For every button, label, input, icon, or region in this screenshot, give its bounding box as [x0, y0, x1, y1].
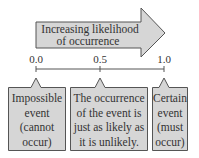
callout-line: event: [152, 106, 188, 121]
callout-line: event: [8, 106, 66, 121]
callout-line: just as likely as: [70, 120, 148, 135]
number-line: [36, 66, 164, 72]
callout-text-even: The occurrence of the event is just as l…: [70, 91, 148, 149]
callout-line: of the event is: [70, 106, 148, 121]
callout-line: Impossible: [8, 91, 66, 106]
callout-line: it is unlikely.: [70, 135, 148, 150]
callout-line: occur): [152, 135, 188, 150]
tick-label-1: 1.0: [157, 53, 171, 65]
callout-text-certain: Certain event (must occur): [152, 91, 188, 149]
callout-line: The occurrence: [70, 91, 148, 106]
callout-line: occur): [8, 135, 66, 150]
tick-label-0: 0.0: [29, 53, 43, 65]
tick-label-0-5: 0.5: [93, 53, 107, 65]
callout-line: Certain: [152, 91, 188, 106]
callout-line: (must: [152, 120, 188, 135]
arrow-label-line2: of occurrence: [57, 35, 120, 47]
callout-text-impossible: Impossible event (cannot occur): [8, 91, 66, 149]
callout-line: (cannot: [8, 120, 66, 135]
